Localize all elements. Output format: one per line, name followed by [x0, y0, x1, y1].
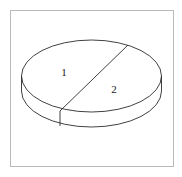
pie-top-face: [22, 40, 162, 112]
pie-slice-label-2: 2: [111, 83, 117, 95]
pie-chart-3d: 1 2: [0, 0, 182, 177]
figure-root: 1 2: [0, 0, 182, 177]
pie-slice-label-1: 1: [61, 66, 67, 78]
